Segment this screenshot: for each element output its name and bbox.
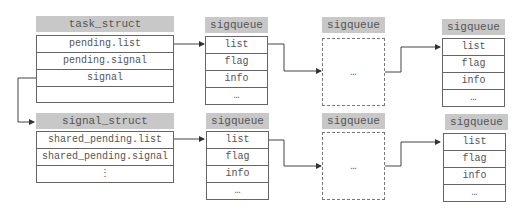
signal-struct-header: signal_struct <box>36 113 174 129</box>
ellipsis: … <box>323 161 384 172</box>
sigqueue-field-more: … <box>444 185 505 202</box>
sigqueue-field-info: info <box>443 73 504 90</box>
ellipsis: … <box>323 67 384 78</box>
sigqueue-field-flag: flag <box>207 149 268 166</box>
sigqueue-box: list flag info … <box>205 36 268 105</box>
task-struct-box: pending.list pending.signal signal <box>36 35 174 103</box>
sigqueue-header: sigqueue <box>205 17 268 33</box>
sigqueue-field-list: list <box>207 132 268 149</box>
task-struct-header: task_struct <box>36 16 174 32</box>
field-shared-pending-signal: shared_pending.signal <box>37 149 173 166</box>
sigqueue-field-more: … <box>443 90 504 107</box>
sigqueue-header: sigqueue <box>322 113 385 129</box>
sigqueue-field-list: list <box>206 37 267 54</box>
field-empty <box>37 87 173 104</box>
sigqueue-field-flag: flag <box>444 151 505 168</box>
field-signal: signal <box>37 70 173 87</box>
sigqueue-field-list: list <box>443 39 504 56</box>
sigqueue-field-flag: flag <box>206 54 267 71</box>
sigqueue-field-info: info <box>207 166 268 183</box>
sigqueue-header: sigqueue <box>322 17 385 33</box>
sigqueue-field-list: list <box>444 134 505 151</box>
sigqueue-header: sigqueue <box>445 114 508 130</box>
field-shared-pending-list: shared_pending.list <box>37 132 173 149</box>
field-more: ⋮ <box>37 166 173 183</box>
sigqueue-field-info: info <box>444 168 505 185</box>
signal-struct-box: shared_pending.list shared_pending.signa… <box>36 131 174 183</box>
field-pending-signal: pending.signal <box>37 53 173 70</box>
signal-pending-diagram: task_struct pending.list pending.signal … <box>0 0 524 212</box>
field-pending-list: pending.list <box>37 36 173 53</box>
sigqueue-field-info: info <box>206 71 267 88</box>
sigqueue-box: list flag info … <box>442 38 505 107</box>
sigqueue-box: list flag info … <box>443 133 506 202</box>
sigqueue-box: list flag info … <box>206 131 269 200</box>
sigqueue-placeholder-box: … <box>322 132 385 200</box>
sigqueue-field-more: … <box>206 88 267 105</box>
sigqueue-placeholder-box: … <box>322 38 385 106</box>
sigqueue-field-flag: flag <box>443 56 504 73</box>
sigqueue-header: sigqueue <box>442 19 505 35</box>
sigqueue-field-more: … <box>207 183 268 200</box>
sigqueue-header: sigqueue <box>206 113 269 129</box>
